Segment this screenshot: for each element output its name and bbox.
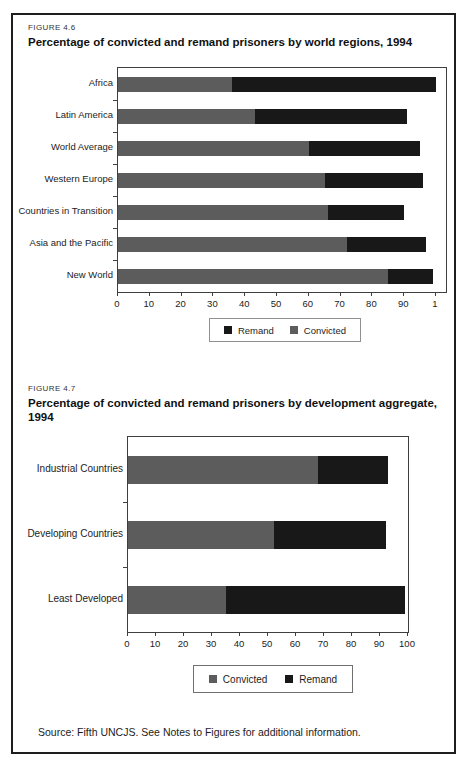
bar-segment-remand <box>325 173 424 188</box>
bar-row <box>128 437 408 502</box>
legend-item: Convicted <box>209 674 267 685</box>
legend-label: Convicted <box>304 325 346 336</box>
y-axis-tick <box>113 260 118 261</box>
y-axis-tick <box>123 502 128 503</box>
x-axis-tick <box>155 632 156 636</box>
figure-4-7-title-line2: 1994 <box>28 411 438 425</box>
x-axis-tick <box>435 292 436 296</box>
figure-4-7-title-line1: Percentage of convicted and remand priso… <box>28 397 438 411</box>
figure-4-7-title: Percentage of convicted and remand priso… <box>28 397 438 424</box>
x-axis-tick <box>267 632 268 636</box>
bar-segment-convicted <box>118 109 255 124</box>
category-label: World Average <box>51 131 113 163</box>
legend-label: Remand <box>299 674 337 685</box>
source-note: Source: Fifth UNCJS. See Notes to Figure… <box>38 726 361 738</box>
x-axis-tick-label: 10 <box>144 298 155 309</box>
stacked-bar <box>118 77 436 92</box>
x-axis-tick-label: 1 <box>432 298 437 309</box>
figure-4-6-title: Percentage of convicted and remand priso… <box>28 36 458 50</box>
x-axis-tick-label: 100 <box>399 638 415 649</box>
x-axis-tick-label: 0 <box>124 638 129 649</box>
bar-segment-remand <box>328 205 404 220</box>
bar-row <box>118 68 446 100</box>
chart-development-aggregate-axis: 0102030405060708090100 <box>127 632 407 654</box>
stacked-bar <box>118 269 433 284</box>
page-border: FIGURE 4.6 Percentage of convicted and r… <box>11 13 456 754</box>
bar-row <box>118 164 446 196</box>
category-label: Countries in Transition <box>18 195 113 227</box>
bar-segment-convicted <box>128 586 226 614</box>
bar-segment-convicted <box>128 521 274 549</box>
x-axis-tick <box>295 632 296 636</box>
x-axis-tick <box>276 292 277 296</box>
category-label: Asia and the Pacific <box>30 227 113 259</box>
stacked-bar <box>118 173 423 188</box>
category-label: Industrial Countries <box>37 436 123 501</box>
y-axis-tick <box>113 196 118 197</box>
x-axis-tick-label: 20 <box>178 638 189 649</box>
x-axis-tick-label: 70 <box>318 638 329 649</box>
figure-4-6-title-line1: Percentage of convicted and remand priso… <box>28 36 458 50</box>
x-axis-tick-label: 40 <box>239 298 250 309</box>
category-label: Africa <box>89 67 113 99</box>
bar-segment-convicted <box>118 77 232 92</box>
bar-row <box>118 228 446 260</box>
chart-development-aggregate-legend: ConvictedRemand <box>193 665 353 693</box>
bar-segment-remand <box>274 521 386 549</box>
x-axis-tick <box>181 292 182 296</box>
x-axis-tick-label: 60 <box>290 638 301 649</box>
x-axis-tick <box>244 292 245 296</box>
category-label: Western Europe <box>45 163 113 195</box>
x-axis-tick-label: 20 <box>175 298 186 309</box>
legend-item: Remand <box>224 325 274 336</box>
legend-label: Remand <box>238 325 274 336</box>
x-axis-tick <box>308 292 309 296</box>
bar-segment-remand <box>226 586 405 614</box>
x-axis-tick-label: 80 <box>346 638 357 649</box>
x-axis-tick-label: 40 <box>234 638 245 649</box>
scanned-report-page: FIGURE 4.6 Percentage of convicted and r… <box>0 0 467 764</box>
stacked-bar <box>118 205 404 220</box>
x-axis-tick-label: 30 <box>206 638 217 649</box>
bar-segment-convicted <box>118 205 328 220</box>
legend-swatch-remand <box>224 326 232 334</box>
chart-world-regions-axis: 01020304050607080901 <box>117 292 445 314</box>
bar-segment-remand <box>309 141 420 156</box>
x-axis-tick <box>371 292 372 296</box>
bar-segment-remand <box>255 109 408 124</box>
chart-development-aggregate: Industrial CountriesDeveloping Countries… <box>13 436 454 698</box>
x-axis-tick-label: 60 <box>303 298 314 309</box>
stacked-bar <box>128 586 405 614</box>
category-label: Least Developed <box>48 566 123 631</box>
x-axis-tick <box>183 632 184 636</box>
legend-swatch-convicted <box>290 326 298 334</box>
bar-row <box>128 502 408 567</box>
bar-segment-convicted <box>118 269 388 284</box>
legend-swatch-remand <box>285 675 293 683</box>
category-label: New World <box>67 259 113 291</box>
bar-segment-remand <box>232 77 436 92</box>
stacked-bar <box>128 521 386 549</box>
bar-row <box>118 132 446 164</box>
x-axis-tick <box>340 292 341 296</box>
bar-segment-convicted <box>118 141 309 156</box>
x-axis-tick <box>117 292 118 296</box>
stacked-bar <box>118 237 426 252</box>
stacked-bar <box>118 141 420 156</box>
legend-item: Remand <box>285 674 337 685</box>
chart-world-regions-plot <box>117 67 447 293</box>
y-axis-tick <box>113 100 118 101</box>
x-axis-tick <box>351 632 352 636</box>
x-axis-tick-label: 50 <box>271 298 282 309</box>
x-axis-tick <box>127 632 128 636</box>
bar-segment-remand <box>388 269 433 284</box>
x-axis-tick-label: 90 <box>374 638 385 649</box>
bar-segment-convicted <box>118 237 347 252</box>
category-label: Latin America <box>55 99 113 131</box>
x-axis-tick <box>211 632 212 636</box>
bar-segment-convicted <box>118 173 325 188</box>
x-axis-tick-label: 70 <box>334 298 345 309</box>
legend-label: Convicted <box>223 674 267 685</box>
x-axis-tick-label: 0 <box>114 298 119 309</box>
figure-4-7-label: FIGURE 4.7 <box>28 384 76 393</box>
